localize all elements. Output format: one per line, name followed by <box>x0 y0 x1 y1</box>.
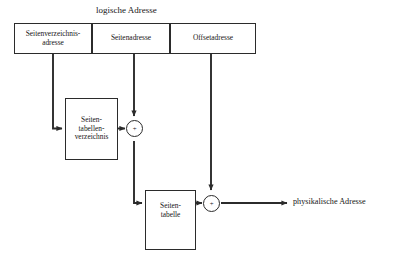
box-page-table-directory: Seiten- tabellen- verzeichnis <box>65 98 118 160</box>
address-translation-diagram: logische Adresse Seitenverzeichnis- adre… <box>0 0 396 261</box>
box-page-table-line2: tabelle <box>161 210 181 219</box>
adder-1-icon: + <box>126 120 143 137</box>
adder-2-icon: + <box>203 195 220 212</box>
adder-1-symbol: + <box>132 125 137 133</box>
diagram-title: logische Adresse <box>96 5 157 15</box>
physical-address-label: physikalische Adresse <box>293 197 366 206</box>
box-page-table: Seiten- tabelle <box>145 190 196 250</box>
header-cell-page-directory-address-line2: adresse <box>42 38 64 47</box>
header-cell-page-address: Seitenadresse <box>92 23 170 54</box>
line-dir-address-to-page-table-directory <box>53 54 62 129</box>
box-page-table-directory-line3: verzeichnis <box>75 132 109 141</box>
line-adder-1-to-page-table <box>134 141 142 203</box>
header-cell-page-directory-address: Seitenverzeichnis- adresse <box>14 23 92 54</box>
header-cell-page-address-label: Seitenadresse <box>111 34 151 43</box>
header-cell-offset-address: Offsetadresse <box>170 23 256 54</box>
header-cell-offset-address-label: Offsetadresse <box>193 34 233 43</box>
adder-2-symbol: + <box>209 200 214 208</box>
